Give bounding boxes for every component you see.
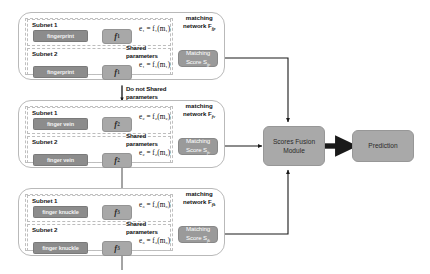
not-shared-line1: Do not Shared bbox=[126, 85, 166, 92]
feature-extractor-subscript: 3 bbox=[117, 245, 120, 251]
input-box-finger-vein-2: finger vein bbox=[33, 154, 88, 166]
matching-network-line1: matching bbox=[186, 190, 213, 197]
shared-label-line2: parameters bbox=[126, 228, 158, 235]
matching-score-subscript: fv bbox=[207, 150, 210, 155]
feature-extractor-subscript: 3 bbox=[117, 209, 120, 215]
embedding-eq-finger-vein-1: e₂ = f₂(m₂) bbox=[139, 113, 170, 121]
shared-label-line1: Shared bbox=[126, 220, 146, 227]
embedding-eq-finger-vein-2: e₂ = f₂(m₂) bbox=[139, 149, 170, 157]
input-box-finger-knuckle-2: finger knuckle bbox=[33, 242, 88, 254]
matching-score-box-fingerprint: Matching Score Sfp bbox=[178, 50, 218, 67]
matching-network-line2: network F bbox=[183, 198, 212, 205]
matching-network-label-finger-knuckle: matching network Ffk bbox=[183, 190, 216, 208]
matching-score-line1: Matching bbox=[186, 225, 210, 233]
not-shared-line2: parameters bbox=[126, 93, 158, 100]
matching-network-line2: network F bbox=[183, 110, 212, 117]
shared-label-line1: Shared bbox=[126, 132, 146, 139]
matching-score-subscript: fk bbox=[207, 238, 210, 243]
embedding-eq-finger-knuckle-1: e₃ = f₃(m₃) bbox=[139, 201, 170, 209]
feature-extractor-fingerprint-1: f1 bbox=[102, 29, 132, 44]
subnet-label: Subnet 1 bbox=[32, 21, 57, 28]
input-box-fingerprint-2: fingerprint bbox=[33, 66, 88, 78]
matching-network-line1: matching bbox=[186, 102, 213, 109]
input-box-finger-vein-1: finger vein bbox=[33, 118, 88, 130]
shared-label-line2: parameters bbox=[126, 140, 158, 147]
scores-fusion-module-box: Scores Fusion Module bbox=[263, 126, 325, 166]
feature-extractor-finger-vein-1: f2 bbox=[102, 117, 132, 132]
matching-network-label-fingerprint: matching network Ffp bbox=[183, 14, 216, 32]
shared-parameters-label-finger-vein: Shared parameters bbox=[126, 132, 158, 147]
subnet-label: Subnet 2 bbox=[32, 50, 57, 57]
matching-score-line1: Matching bbox=[186, 137, 210, 145]
subnet-label: Subnet 2 bbox=[32, 226, 57, 233]
shared-label-line2: parameters bbox=[126, 52, 158, 59]
matching-network-subscript: fk bbox=[212, 202, 216, 207]
shared-parameters-label-fingerprint: Shared parameters bbox=[126, 44, 158, 59]
fusion-line2: Module bbox=[283, 147, 305, 154]
shared-parameters-label-finger-knuckle: Shared parameters bbox=[126, 220, 158, 235]
subnet-label: Subnet 1 bbox=[32, 197, 57, 204]
matching-score-box-finger-knuckle: Matching Score Sfk bbox=[178, 226, 218, 243]
matching-score-line1: Matching bbox=[186, 49, 210, 57]
embedding-eq-fingerprint-1: e₁ = f₁(m₁) bbox=[139, 25, 170, 33]
not-shared-parameters-label: Do not Shared parameters bbox=[126, 85, 166, 100]
matching-score-line2: Score S bbox=[186, 146, 207, 153]
matching-score-subscript: fp bbox=[207, 62, 210, 67]
fusion-line1: Scores Fusion bbox=[273, 138, 315, 145]
matching-network-subscript: fp bbox=[212, 26, 216, 31]
feature-extractor-subscript: 2 bbox=[117, 157, 120, 163]
embedding-eq-fingerprint-2: e₁ = f₁(m₁) bbox=[139, 61, 170, 69]
feature-extractor-subscript: 1 bbox=[117, 69, 120, 75]
input-box-fingerprint-1: fingerprint bbox=[33, 30, 88, 42]
subnet-label: Subnet 2 bbox=[32, 138, 57, 145]
prediction-box: Prediction bbox=[352, 130, 414, 162]
shared-label-line1: Shared bbox=[126, 44, 146, 51]
matching-network-line2: network F bbox=[183, 22, 212, 29]
matching-score-line2: Score S bbox=[186, 234, 207, 241]
feature-extractor-finger-vein-2: f2 bbox=[102, 153, 132, 168]
feature-extractor-finger-knuckle-1: f3 bbox=[102, 205, 132, 220]
matching-network-line1: matching bbox=[186, 14, 213, 21]
matching-network-label-finger-vein: matching network Ffv bbox=[183, 102, 215, 120]
input-box-finger-knuckle-1: finger knuckle bbox=[33, 206, 88, 218]
feature-extractor-finger-knuckle-2: f3 bbox=[102, 241, 132, 256]
embedding-eq-finger-knuckle-2: e₃ = f₃(m₃) bbox=[139, 237, 170, 245]
matching-network-subscript: fv bbox=[212, 114, 216, 119]
feature-extractor-subscript: 1 bbox=[117, 33, 120, 39]
diagram-canvas: Subnet 1 fingerprint f1 Subnet 2 fingerp… bbox=[0, 0, 430, 274]
subnet-label: Subnet 1 bbox=[32, 109, 57, 116]
matching-score-line2: Score S bbox=[186, 58, 207, 65]
feature-extractor-subscript: 2 bbox=[117, 121, 120, 127]
matching-score-box-finger-vein: Matching Score Sfv bbox=[178, 138, 218, 155]
feature-extractor-fingerprint-2: f1 bbox=[102, 65, 132, 80]
